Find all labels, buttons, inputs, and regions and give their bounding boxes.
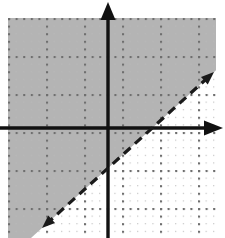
coordinate-plane-svg — [0, 0, 225, 238]
inequality-graph-figure — [0, 0, 225, 238]
